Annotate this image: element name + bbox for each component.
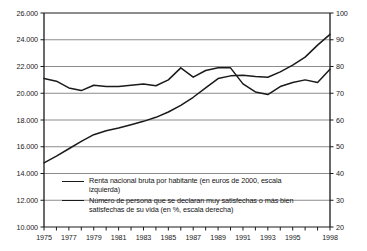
y-right-tick-label: 60 xyxy=(336,116,344,125)
legend-item: Renta nacional bruta por habitante (en e… xyxy=(62,176,312,195)
y-right-tick-label: 90 xyxy=(336,35,344,44)
chart-legend: Renta nacional bruta por habitante (en e… xyxy=(62,176,312,216)
legend-line-swatch-gni xyxy=(62,181,84,182)
legend-label-satisfaction: Número de persona que se declaran muy sa… xyxy=(89,196,311,215)
chart-container: 10.00012.00014.00016.00018.00020.00022.0… xyxy=(0,0,367,251)
x-tick-label: 1998 xyxy=(314,233,346,242)
data-series xyxy=(44,34,330,162)
y-left-tick-label: 24.000 xyxy=(0,35,38,44)
y-left-tick-label: 18.000 xyxy=(0,116,38,125)
y-left-tick-label: 16.000 xyxy=(0,142,38,151)
y-right-tick-label: 20 xyxy=(336,223,344,232)
y-right-tick-label: 70 xyxy=(336,89,344,98)
y-right-tick-label: 80 xyxy=(336,62,344,71)
series-line-gni xyxy=(44,34,330,162)
y-left-tick-label: 14.000 xyxy=(0,169,38,178)
y-left-tick-label: 10.000 xyxy=(0,223,38,232)
series-line-satisfaction xyxy=(44,68,330,95)
legend-label-gni: Renta nacional bruta por habitante (en e… xyxy=(89,176,311,195)
legend-item: Número de persona que se declaran muy sa… xyxy=(62,196,312,215)
y-left-tick-label: 22.000 xyxy=(0,62,38,71)
y-right-tick-label: 50 xyxy=(336,142,344,151)
y-right-tick-label: 40 xyxy=(336,169,344,178)
y-left-tick-label: 12.000 xyxy=(0,196,38,205)
x-tick-label: 1995 xyxy=(277,233,309,242)
y-right-tick-label: 30 xyxy=(336,196,344,205)
y-left-tick-label: 26.000 xyxy=(0,9,38,18)
legend-line-swatch-satisfaction xyxy=(62,200,84,201)
y-left-tick-label: 20.000 xyxy=(0,89,38,98)
y-right-tick-label: 100 xyxy=(336,9,348,18)
